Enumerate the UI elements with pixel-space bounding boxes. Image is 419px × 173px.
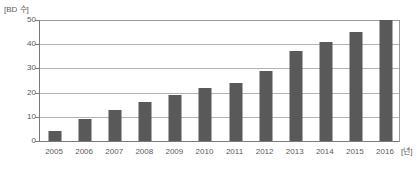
bar-slot (160, 20, 190, 141)
x-axis-unit-label: [년] (401, 147, 412, 156)
y-tick-label: 20 (14, 89, 36, 97)
y-tick-label: 10 (14, 113, 36, 121)
bar (289, 51, 302, 141)
bar-chart: [BD 수] 01020304050 200520062007200820092… (0, 0, 419, 173)
bar (319, 42, 332, 141)
bars-group (40, 20, 399, 141)
bar-slot (190, 20, 220, 141)
bar (109, 110, 122, 141)
bar-slot (100, 20, 130, 141)
bar-slot (371, 20, 401, 141)
y-tick-label: 50 (14, 16, 36, 24)
bar-slot (311, 20, 341, 141)
plot-area (39, 20, 400, 142)
bar-slot (40, 20, 70, 141)
y-tick-label: 40 (14, 40, 36, 48)
bar (169, 95, 182, 141)
x-tick-label: 2016 (365, 147, 405, 156)
bar (349, 32, 362, 141)
bar (229, 83, 242, 141)
y-tick-label: 0 (14, 137, 36, 145)
bar (79, 119, 92, 141)
bar-slot (251, 20, 281, 141)
bar (379, 20, 392, 141)
bar-slot (281, 20, 311, 141)
bar-slot (130, 20, 160, 141)
bar-slot (70, 20, 100, 141)
bar (49, 131, 62, 141)
bar-slot (221, 20, 251, 141)
bar (139, 102, 152, 141)
y-axis-unit-label: [BD 수] (4, 5, 29, 15)
bar (259, 71, 272, 141)
y-tick-label: 30 (14, 64, 36, 72)
bar-slot (341, 20, 371, 141)
bar (199, 88, 212, 141)
